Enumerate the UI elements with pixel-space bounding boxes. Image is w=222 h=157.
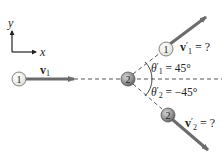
theta1-label: θ′1 = 45° (151, 61, 191, 76)
x-axis-label: x (39, 45, 46, 59)
particle-1-final: 1 (159, 42, 173, 56)
v1-label: v1 (40, 63, 50, 78)
v2-prime-label: v′2 = ? (185, 116, 215, 132)
particle-1-final-label: 1 (164, 44, 169, 55)
particle-2-target-label: 2 (126, 74, 131, 85)
y-axis-label: y (7, 16, 14, 30)
coordinate-axes: y x (7, 16, 46, 59)
collision-diagram: y x v1 v′1 = ? v′2 = ? θ′1 = 45° θ′2 = −… (0, 0, 222, 157)
reference-lines (74, 53, 222, 109)
particle-2-final-label: 2 (166, 110, 171, 121)
theta2-label: θ′2 = −45° (151, 85, 198, 100)
particle-1-initial-label: 1 (17, 74, 22, 85)
particle-2-target: 2 (121, 72, 135, 86)
particle-1-initial: 1 (12, 72, 26, 86)
particle-2-final: 2 (161, 108, 175, 122)
v1-prime-label: v′1 = ? (180, 40, 210, 56)
